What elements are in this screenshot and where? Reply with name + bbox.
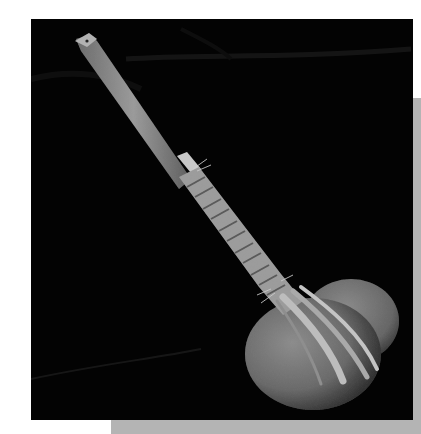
drop-shadow-right [413,98,421,434]
photo-illustration [31,19,413,420]
photograph: Black-and-white photograph of a long woo… [31,19,413,420]
fiber-binding [179,167,303,315]
gourd-front [245,298,381,410]
drop-shadow-bottom [111,420,421,434]
